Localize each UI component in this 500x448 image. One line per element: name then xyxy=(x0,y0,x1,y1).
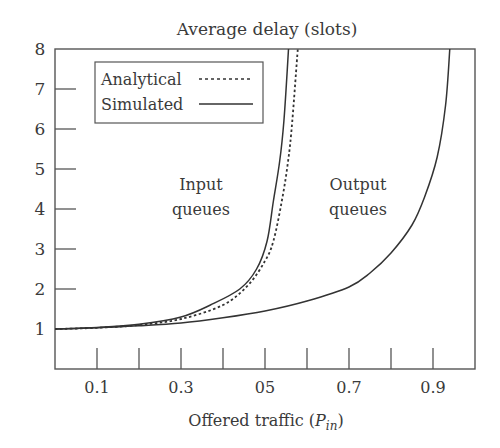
annotation-output-queues: Output queues xyxy=(329,175,387,219)
svg-text:Input: Input xyxy=(179,175,223,194)
y-tick-label: 1 xyxy=(35,319,46,339)
chart-title: Average delay (slots) xyxy=(176,19,358,39)
x-axis-tick-labels: 0.10.3050.70.9 xyxy=(84,378,445,397)
x-axis-label: Offered traffic (Pin) xyxy=(188,411,343,433)
annotation-input-queues: Input queues xyxy=(172,175,230,219)
x-tick-label: 05 xyxy=(255,378,275,397)
y-tick-label: 3 xyxy=(35,239,46,259)
y-tick-label: 4 xyxy=(35,199,46,219)
y-tick-label: 8 xyxy=(35,39,46,59)
chart: Average delay (slots) 12345678 0.10.3050… xyxy=(0,0,500,448)
y-axis-ticks xyxy=(55,89,76,289)
x-tick-label: 0.1 xyxy=(84,378,109,397)
legend: Analytical Simulated xyxy=(95,62,263,123)
svg-text:Output: Output xyxy=(330,175,387,194)
y-tick-label: 2 xyxy=(35,279,46,299)
x-tick-label: 0.9 xyxy=(420,378,445,397)
svg-text:queues: queues xyxy=(172,200,230,219)
y-axis-tick-labels: 12345678 xyxy=(35,39,46,339)
x-tick-label: 0.3 xyxy=(168,378,193,397)
y-tick-label: 5 xyxy=(35,159,46,179)
legend-label-analytical: Analytical xyxy=(100,70,182,89)
x-tick-label: 0.7 xyxy=(336,378,361,397)
legend-label-simulated: Simulated xyxy=(101,95,183,114)
y-tick-label: 7 xyxy=(35,79,46,99)
svg-text:queues: queues xyxy=(329,200,387,219)
y-tick-label: 6 xyxy=(35,119,46,139)
x-axis-ticks xyxy=(97,348,433,369)
